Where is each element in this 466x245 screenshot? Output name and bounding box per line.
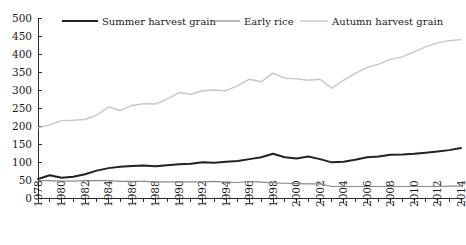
x-tick-label: 2012 [431, 180, 443, 207]
x-tick-label: 1996 [243, 180, 255, 207]
x-tick-label: 2008 [384, 180, 396, 207]
x-tick-label: 1994 [220, 180, 232, 207]
legend-label: Early rice [244, 16, 294, 27]
x-tick-label: 1986 [126, 180, 138, 207]
x-tick-label: 1978 [32, 180, 44, 207]
legend-label: Summer harvest grain [102, 16, 217, 27]
y-tick-label: 450 [12, 30, 32, 42]
series-line [38, 148, 461, 179]
x-tick-label: 1998 [267, 180, 279, 207]
x-tick-label: 2004 [337, 180, 349, 207]
y-tick-label: 150 [12, 138, 32, 150]
y-tick-label: 100 [12, 156, 32, 168]
y-tick-label: 250 [12, 102, 32, 114]
y-tick-label: 500 [12, 12, 32, 24]
legend-label: Autumn harvest grain [331, 16, 444, 27]
x-tick-label: 2006 [361, 180, 373, 207]
y-tick-label: 50 [19, 174, 32, 186]
line-chart: Summer harvest grainEarly riceAutumn har… [0, 0, 466, 245]
x-tick-label: 1982 [79, 180, 91, 207]
series-line [38, 40, 461, 128]
y-tick-label: 350 [12, 66, 32, 78]
chart-legend: Summer harvest grainEarly riceAutumn har… [62, 16, 444, 27]
y-axis: 050100150200250300350400450500 [12, 12, 42, 204]
y-tick-label: 300 [12, 84, 32, 96]
x-tick-label: 1984 [102, 180, 114, 207]
y-tick-label: 200 [12, 120, 32, 132]
x-tick-label: 1988 [149, 180, 161, 207]
x-tick-label: 1992 [196, 180, 208, 207]
chart-container: Summer harvest grainEarly riceAutumn har… [0, 0, 466, 245]
x-tick-label: 2010 [408, 180, 420, 207]
y-tick-label: 400 [12, 48, 32, 60]
x-axis: 1978198019821984198619881990199219941996… [32, 180, 466, 207]
series-layer [38, 40, 461, 187]
x-tick-label: 2014 [455, 180, 466, 207]
x-tick-label: 1990 [173, 180, 185, 207]
x-tick-label: 1980 [55, 180, 67, 207]
